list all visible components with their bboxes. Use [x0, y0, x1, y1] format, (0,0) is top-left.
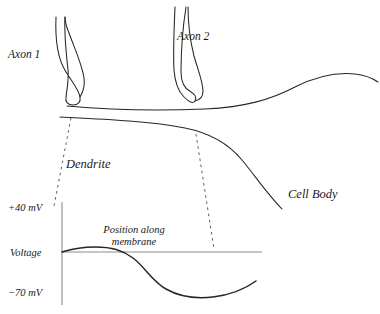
- dendrite-right-dashed-line: [196, 134, 214, 249]
- position-axis-title-line-1: Position along: [103, 224, 165, 235]
- axon-2-label: Axon 2: [177, 30, 209, 44]
- axon-2-shape: [174, 7, 203, 102]
- dendrite-label: Dendrite: [66, 157, 110, 172]
- membrane-outer-line: [67, 74, 378, 110]
- neuron-diagram-svg: [0, 0, 380, 314]
- figure-canvas: Axon 1 Axon 2 Dendrite Cell Body +40 mV …: [0, 0, 380, 314]
- axon-1-shape: [56, 17, 84, 105]
- axon-1-label: Axon 1: [8, 48, 40, 62]
- voltage-axis-max-label: +40 mV: [8, 202, 42, 214]
- voltage-axis-min-label: −70 mV: [8, 287, 42, 299]
- position-axis-title: Position along membrane: [88, 224, 180, 249]
- voltage-axis-title: Voltage: [10, 247, 42, 259]
- voltage-trace: [62, 247, 256, 298]
- cell-body-label: Cell Body: [288, 187, 338, 202]
- position-axis-title-line-2: membrane: [88, 236, 180, 248]
